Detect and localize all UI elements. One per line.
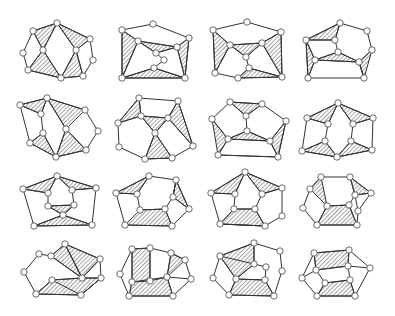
vertex-circle xyxy=(311,250,317,256)
edge xyxy=(211,193,220,224)
vertex-circle xyxy=(332,37,338,43)
hatched-face xyxy=(245,172,282,194)
vertex-circle xyxy=(45,190,51,196)
vertex-circle xyxy=(369,147,375,153)
vertex-circle xyxy=(312,57,318,63)
vertex-circle xyxy=(244,128,250,134)
vertex-circle xyxy=(314,293,320,299)
vertex-circle xyxy=(252,206,258,212)
edge xyxy=(149,176,176,180)
edge xyxy=(92,188,96,225)
vertex-circle xyxy=(267,138,273,144)
edge xyxy=(153,24,189,38)
graph-grid-figure xyxy=(0,0,395,316)
vertex-circle xyxy=(364,28,370,34)
vertex-circle xyxy=(117,271,123,277)
vertex-circle xyxy=(95,128,101,134)
vertex-circle xyxy=(243,113,249,119)
vertex-circle xyxy=(283,118,289,124)
vertex-circle xyxy=(27,140,33,146)
vertex-circle xyxy=(242,169,248,175)
vertex-circle xyxy=(161,57,167,63)
vertex-circle xyxy=(225,136,231,142)
vertex-circle xyxy=(305,75,311,81)
edge xyxy=(118,123,119,147)
vertex-circle xyxy=(251,240,257,246)
vertex-circle xyxy=(134,191,140,197)
vertex-circle xyxy=(147,245,153,251)
vertex-circle xyxy=(209,116,215,122)
vertex-circle xyxy=(150,21,156,27)
hatched-face xyxy=(317,205,357,225)
vertex-circle xyxy=(165,115,171,121)
vertex-circle xyxy=(208,190,214,196)
vertex-circle xyxy=(73,47,79,53)
edge xyxy=(372,118,373,150)
hatched-face xyxy=(132,248,150,282)
vertex-circle xyxy=(119,27,125,33)
vertex-circle xyxy=(136,95,142,101)
vertex-circle xyxy=(169,223,175,229)
vertex-circle xyxy=(54,173,60,179)
edge xyxy=(218,155,278,157)
vertex-circle xyxy=(226,292,232,298)
vertex-circle xyxy=(350,121,356,127)
vertex-circle xyxy=(40,130,46,136)
hatched-faces xyxy=(20,23,373,296)
vertex-circle xyxy=(300,205,306,211)
vertex-circle xyxy=(45,203,51,209)
graph-r3c1-faces xyxy=(23,176,96,226)
vertex-circle xyxy=(355,208,361,214)
vertex-circle xyxy=(188,276,194,282)
vertex-circle xyxy=(361,75,367,81)
vertex-circle xyxy=(116,144,122,150)
edge xyxy=(120,249,132,274)
vertex-circle xyxy=(278,29,284,35)
vertex-circle xyxy=(60,212,66,218)
vertex-circle xyxy=(33,291,39,297)
vertex-circle xyxy=(354,222,360,228)
vertex-circle xyxy=(279,74,285,80)
vertex-circle xyxy=(231,206,237,212)
graph-r2c2-faces xyxy=(118,98,193,159)
vertex-circle xyxy=(129,246,135,252)
vertex-circle xyxy=(31,223,37,229)
vertex-circle xyxy=(314,222,320,228)
vertex-circle xyxy=(49,277,55,283)
vertex-circle xyxy=(36,251,42,257)
vertex-circle xyxy=(93,185,99,191)
vertex-circle xyxy=(275,154,281,160)
vertex-circle xyxy=(210,27,216,33)
vertex-circle xyxy=(173,177,179,183)
vertex-circle xyxy=(345,263,351,269)
vertex-circle xyxy=(356,59,362,65)
vertex-circle xyxy=(153,50,159,56)
graph-r1c1-faces xyxy=(28,23,90,78)
vertex-circle xyxy=(164,274,170,280)
vertex-circle xyxy=(259,101,265,107)
vertex-circle xyxy=(246,65,252,71)
vertex-circle xyxy=(277,248,283,254)
vertex-circle xyxy=(38,111,44,117)
vertex-circle xyxy=(89,222,95,228)
vertex-circle xyxy=(227,42,233,48)
hatched-face xyxy=(213,30,230,73)
vertex-circle xyxy=(235,75,241,81)
vertex-circle xyxy=(135,38,141,44)
vertex-circle xyxy=(259,191,265,197)
vertex-circle xyxy=(44,95,50,101)
vertex-circle xyxy=(227,99,233,105)
vertex-circle xyxy=(279,185,285,191)
edge xyxy=(119,147,145,159)
vertex-circle xyxy=(174,44,180,50)
graph-r4c2-faces xyxy=(129,248,185,296)
edge xyxy=(274,271,282,296)
vertex-circle xyxy=(168,250,174,256)
vertex-circle xyxy=(147,278,153,284)
graph-r3c4-faces xyxy=(310,177,371,225)
vertex-circle xyxy=(170,293,176,299)
vertex-circle xyxy=(83,147,89,153)
edge xyxy=(173,279,191,296)
vertex-circle xyxy=(217,253,223,259)
vertex-circle xyxy=(30,28,36,34)
